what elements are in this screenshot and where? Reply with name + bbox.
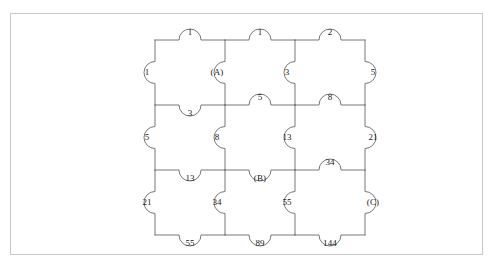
puzzle-edge: [155, 105, 225, 116]
puzzle-edge: [155, 170, 225, 181]
puzzle-edge: [295, 235, 365, 246]
puzzle-edge: [214, 170, 225, 235]
puzzle-edge: [284, 170, 295, 235]
puzzle-edge: [225, 235, 295, 246]
puzzle-edge: [365, 105, 376, 170]
puzzle-edge: [144, 105, 155, 170]
puzzle-outline-svg: [0, 0, 495, 267]
puzzle-edge: [295, 94, 365, 105]
puzzle-edge: [155, 235, 225, 246]
puzzle-edge: [284, 105, 295, 170]
puzzle-edge: [144, 40, 155, 105]
puzzle-piece-outlines: [144, 29, 376, 246]
puzzle-edge: [365, 170, 376, 235]
puzzle-edge: [225, 170, 295, 181]
puzzle-edge: [214, 105, 225, 170]
puzzle-edge: [155, 29, 225, 40]
puzzle-edge: [365, 40, 376, 105]
puzzle-diagram: 11255891441521521(C)(A)8343135535813(B)3…: [0, 0, 495, 267]
puzzle-edge: [295, 159, 365, 170]
puzzle-edge: [144, 170, 155, 235]
puzzle-edge: [214, 40, 225, 105]
puzzle-edge: [284, 40, 295, 105]
puzzle-edge: [225, 94, 295, 105]
puzzle-edge: [225, 29, 295, 40]
puzzle-edge: [295, 29, 365, 40]
